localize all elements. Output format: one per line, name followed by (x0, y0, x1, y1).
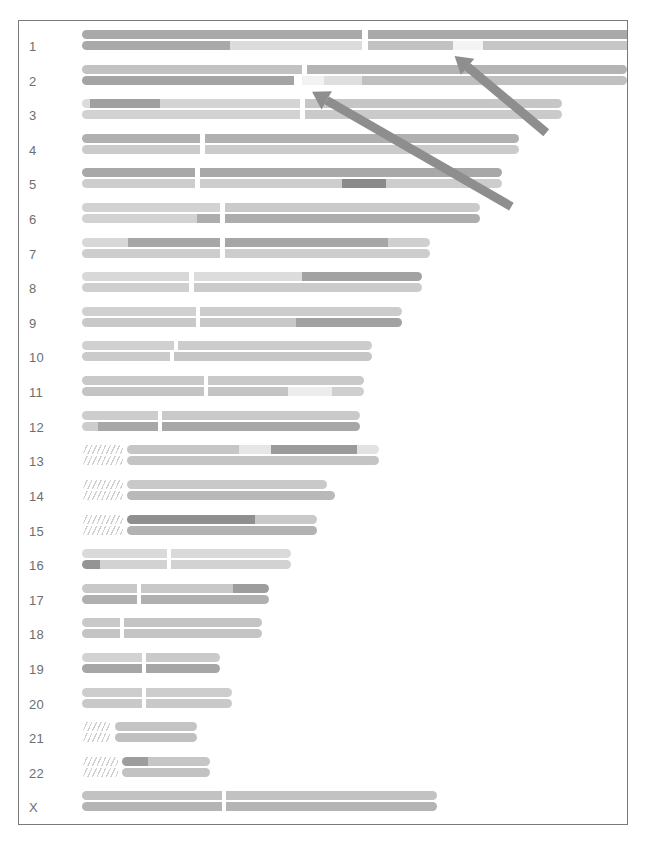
chr5-homolog-a-band-3 (200, 168, 502, 177)
chr9-homolog-a-band-1 (82, 307, 196, 316)
chr16-homolog-b-band-1 (82, 560, 100, 569)
chromosome-row-1: 1 (19, 30, 627, 64)
chr1-homolog-b-band-4 (368, 41, 453, 50)
chromosome-row-x: X (19, 791, 627, 825)
chromosome-row-6: 6 (19, 203, 627, 237)
chr11-homolog-a-band-3 (208, 376, 364, 385)
chromosome-row-21: 21 (19, 722, 627, 756)
chr6-homolog-b-band-4 (225, 214, 480, 223)
chromosome-label-3: 3 (29, 107, 63, 125)
chr12-homolog-a-band-1 (82, 411, 158, 420)
chr9-homolog-b-band-3 (200, 318, 296, 327)
chr9-homolog-b-band-4 (296, 318, 402, 327)
chr8-homolog-a-band-3 (194, 272, 302, 281)
chr3-homolog-a-band-5 (305, 99, 562, 108)
chr15-homolog-a-band-2 (255, 515, 317, 524)
chr17-homolog-a-band-3 (141, 584, 233, 593)
chromosome-row-17: 17 (19, 584, 627, 618)
chr12-homolog-b-band-1 (82, 422, 98, 431)
chromosome-label-x: X (29, 799, 63, 817)
chromosome-row-19: 19 (19, 653, 627, 687)
chr2-homolog-a-band-3 (307, 65, 627, 74)
chromosome-row-15: 15 (19, 515, 627, 549)
chromosome-label-1: 1 (29, 38, 63, 56)
chr10-homolog-b-band-3 (174, 352, 372, 361)
chr16-homolog-a-band-3 (171, 549, 291, 558)
chromosome-row-11: 11 (19, 376, 627, 410)
chromosome-label-18: 18 (29, 626, 63, 644)
chr11-homolog-b-band-3 (208, 387, 288, 396)
chromosome-label-14: 14 (29, 488, 63, 506)
chr19-homolog-a-band-1 (82, 653, 142, 662)
chromosome-label-7: 7 (29, 246, 63, 264)
chr1-homolog-a-band-1 (82, 30, 362, 39)
chr12-homolog-a-band-3 (162, 411, 360, 420)
chr1-homolog-b-band-1 (82, 41, 230, 50)
chr19-homolog-b-band-1 (82, 664, 142, 673)
chr1-homolog-b-band-6 (483, 41, 628, 50)
chr8-homolog-b-band-1 (82, 283, 189, 292)
chr13-homolog-a-band-3 (271, 445, 357, 454)
chr3-homolog-a-band-3 (160, 99, 300, 108)
chr22-homolog-b-band-1 (122, 768, 210, 777)
chr20-homolog-b-band-3 (146, 699, 232, 708)
chromosome-row-12: 12 (19, 411, 627, 445)
chr16-homolog-b-band-2 (100, 560, 167, 569)
chr13-homolog-a-band-2 (239, 445, 271, 454)
chromosome-label-21: 21 (29, 730, 63, 748)
chr17-homolog-a-band-4 (233, 584, 269, 593)
chromosome-row-9: 9 (19, 307, 627, 341)
chr4-homolog-b-band-3 (205, 145, 519, 154)
chr22-homolog-a-band-2 (148, 757, 210, 766)
chr13-homolog-a-acrocentric-stalk (82, 445, 123, 454)
chromosome-row-13: 13 (19, 445, 627, 479)
chr17-homolog-a-band-1 (82, 584, 137, 593)
chr10-homolog-a-band-3 (178, 341, 372, 350)
figure-caption (18, 831, 628, 847)
chrX-homolog-a-band-1 (82, 791, 222, 800)
chromosome-row-5: 5 (19, 168, 627, 202)
karyotype-figure-panel: 12345678910111213141516171819202122X (18, 20, 628, 825)
chr13-homolog-b-band-1 (127, 456, 379, 465)
chr14-homolog-a-band-1 (127, 480, 327, 489)
chr5-homolog-b-band-1 (82, 179, 195, 188)
chromosome-row-22: 22 (19, 757, 627, 791)
chromosome-label-4: 4 (29, 142, 63, 160)
chromosome-label-22: 22 (29, 765, 63, 783)
chr7-homolog-a-band-4 (225, 238, 388, 247)
chr15-homolog-a-band-1 (127, 515, 255, 524)
chr19-homolog-b-band-3 (146, 664, 220, 673)
chromosome-label-10: 10 (29, 349, 63, 367)
chr11-homolog-a-band-1 (82, 376, 204, 385)
chr15-homolog-b-acrocentric-stalk (82, 526, 123, 535)
chr2-homolog-b-band-2 (294, 76, 302, 85)
chrX-homolog-b-band-3 (226, 802, 437, 811)
chr18-homolog-a-band-3 (124, 618, 262, 627)
chr22-homolog-b-acrocentric-stalk (82, 768, 118, 777)
chr5-homolog-b-band-3 (200, 179, 342, 188)
chr6-homolog-b-band-1 (82, 214, 197, 223)
chr14-homolog-b-band-1 (127, 491, 335, 500)
chromosome-label-12: 12 (29, 419, 63, 437)
chr17-homolog-b-band-3 (141, 595, 269, 604)
chr1-homolog-b-band-2 (230, 41, 362, 50)
chr14-homolog-b-acrocentric-stalk (82, 491, 123, 500)
chr8-homolog-a-band-4 (302, 272, 422, 281)
chr21-homolog-a-band-1 (115, 722, 197, 731)
chr6-homolog-b-band-2 (197, 214, 220, 223)
chr1-homolog-a-band-3 (368, 30, 628, 39)
chr6-homolog-a-band-1 (82, 203, 220, 212)
chromosome-label-16: 16 (29, 557, 63, 575)
chr5-homolog-a-band-1 (82, 168, 195, 177)
chr3-homolog-a-band-1 (82, 99, 90, 108)
chr4-homolog-b-band-1 (82, 145, 200, 154)
chr4-homolog-a-band-3 (205, 134, 519, 143)
chromosome-row-2: 2 (19, 65, 627, 99)
chr16-homolog-b-band-4 (171, 560, 291, 569)
chromosome-label-13: 13 (29, 453, 63, 471)
chr9-homolog-b-band-1 (82, 318, 196, 327)
chr2-homolog-b-band-1 (82, 76, 294, 85)
chr19-homolog-a-band-3 (146, 653, 220, 662)
chr7-homolog-a-band-5 (388, 238, 430, 247)
chr13-homolog-a-band-1 (127, 445, 239, 454)
